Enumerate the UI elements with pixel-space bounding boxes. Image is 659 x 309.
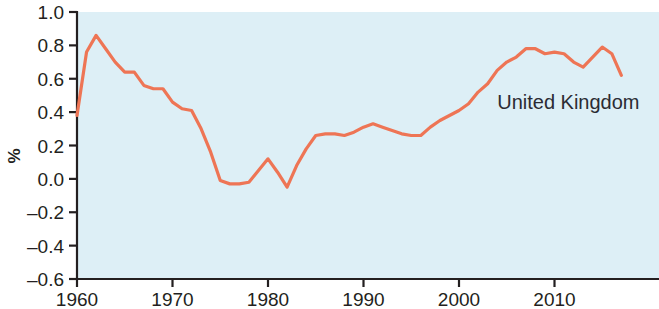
x-axis-tick-marks xyxy=(77,279,555,287)
y-tick-label: 0.2 xyxy=(38,136,64,157)
chart-container: –0.6–0.4–0.20.00.20.40.60.81.0 196019701… xyxy=(0,0,659,309)
y-axis-title: % xyxy=(5,148,24,163)
x-tick-label: 2000 xyxy=(438,289,480,309)
y-tick-label: 0.4 xyxy=(38,102,65,123)
y-tick-label: 1.0 xyxy=(38,2,64,23)
y-axis-tick-marks xyxy=(69,12,77,279)
x-tick-label: 1970 xyxy=(151,289,193,309)
x-tick-label: 1980 xyxy=(247,289,289,309)
series-label-united-kingdom: United Kingdom xyxy=(497,91,639,113)
x-axis-tick-labels: 196019701980199020002010 xyxy=(56,289,576,309)
y-tick-label: –0.4 xyxy=(27,236,64,257)
y-tick-label: –0.2 xyxy=(27,202,64,223)
y-tick-label: 0.0 xyxy=(38,169,64,190)
y-tick-label: 0.8 xyxy=(38,35,64,56)
x-tick-label: 2010 xyxy=(533,289,575,309)
y-tick-label: 0.6 xyxy=(38,69,64,90)
x-tick-label: 1960 xyxy=(56,289,98,309)
y-axis-tick-labels: –0.6–0.4–0.20.00.20.40.60.81.0 xyxy=(27,2,64,290)
y-tick-label: –0.6 xyxy=(27,269,64,290)
plot-area-background xyxy=(77,12,659,279)
x-tick-label: 1990 xyxy=(342,289,384,309)
line-chart-figure: –0.6–0.4–0.20.00.20.40.60.81.0 196019701… xyxy=(0,0,659,309)
